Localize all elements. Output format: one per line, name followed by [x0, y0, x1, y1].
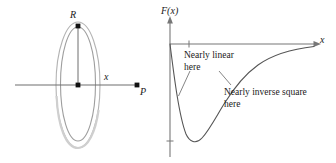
point-p-label: P	[140, 86, 146, 98]
annotation-nearly-inverse-square-line2: here	[224, 98, 307, 110]
ring-shading-arc	[57, 96, 99, 148]
leader-line-nearly-linear	[179, 71, 191, 96]
ring-center-dot	[76, 83, 81, 88]
annotation-nearly-inverse-square-line1: Nearly inverse square	[224, 86, 307, 98]
annotation-nearly-linear-line1: Nearly linear	[184, 49, 234, 61]
ring-radius-label: R	[70, 9, 76, 21]
ring-diagram-group	[15, 22, 139, 148]
annotation-nearly-inverse-square: Nearly inverse square here	[224, 86, 307, 110]
leader-line-nearly-inverse-square	[219, 71, 231, 85]
ring-top-dot	[76, 24, 81, 29]
figure-canvas	[0, 0, 336, 163]
point-p-dot	[135, 83, 140, 88]
physics-figure: R P x F(x) x Nearly linear here Nearly i…	[0, 0, 336, 163]
plot-y-axis-label: F(x)	[161, 5, 178, 17]
annotation-nearly-linear: Nearly linear here	[184, 49, 234, 73]
annotation-nearly-linear-line2: here	[184, 61, 234, 73]
y-axis-arrowhead	[167, 16, 173, 24]
ring-axis-label: x	[104, 71, 108, 83]
plot-x-axis-label: x	[320, 34, 324, 46]
